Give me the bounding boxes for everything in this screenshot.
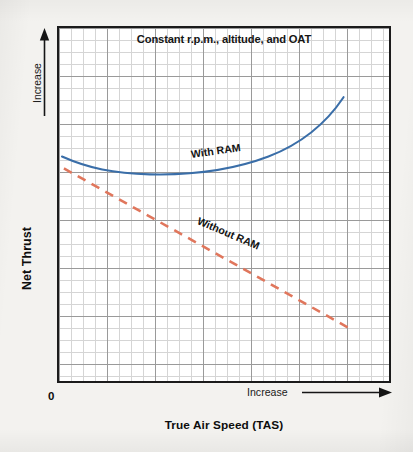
chart-page: Constant r.p.m., altitude, and OAT With … <box>0 0 413 452</box>
series-curves <box>59 28 389 381</box>
plot-area <box>57 26 391 383</box>
y-axis-direction-label: Increase <box>32 23 48 103</box>
series-without-ram-line <box>64 168 353 330</box>
arrow-right-icon <box>302 387 392 398</box>
x-axis-origin-label: 0 <box>48 390 54 402</box>
series-with-ram-line <box>62 97 344 174</box>
x-axis-direction-label: Increase <box>247 386 288 398</box>
x-axis-title: True Air Speed (TAS) <box>57 418 391 432</box>
y-axis-title: Net Thrust <box>20 180 38 290</box>
chart-title: Constant r.p.m., altitude, and OAT <box>57 33 391 45</box>
